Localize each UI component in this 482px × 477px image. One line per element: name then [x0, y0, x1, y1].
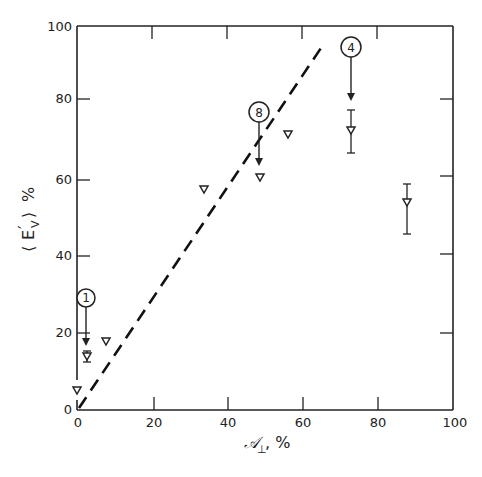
x-tick-80: 80: [370, 415, 387, 430]
annotation-8: 8: [249, 102, 269, 166]
y-axis-close-bracket: ⟩: [19, 212, 38, 218]
data-point: [200, 186, 208, 193]
y-tick-80: 80: [55, 91, 72, 106]
y-tick-0: 0: [64, 402, 72, 417]
data-point: [284, 131, 292, 138]
data-point: [83, 353, 91, 360]
x-axis-ticks: [152, 26, 378, 410]
y-tick-60: 60: [55, 172, 72, 187]
dashed-reference-line: [79, 45, 323, 408]
x-tick-100: 100: [443, 415, 468, 430]
data-point: [256, 174, 264, 181]
x-tick-0: 0: [74, 415, 82, 430]
annotation-8-label: 8: [255, 106, 263, 120]
y-axis-E: E: [19, 230, 38, 240]
arrow-down-icon: [347, 93, 355, 101]
y-axis-ticks: [77, 99, 453, 333]
data-point: [73, 387, 81, 394]
x-tick-20: 20: [146, 415, 163, 430]
annotation-1: 1: [77, 289, 95, 346]
x-tick-60: 60: [295, 415, 312, 430]
data-point: [102, 338, 110, 345]
y-tick-20: 20: [55, 325, 72, 340]
x-tick-labels: 0 20 40 60 80 100: [74, 415, 468, 430]
annotation-4-label: 4: [347, 41, 355, 55]
x-tick-40: 40: [220, 415, 237, 430]
x-axis-title: 𝒜 ⊥ , %: [244, 433, 290, 456]
y-axis-open-bracket: ⟨: [19, 246, 38, 252]
y-tick-labels: 0 20 40 60 80 100: [47, 19, 72, 417]
scatter-chart: 0 20 40 60 80 100 0 20 40 60 80 100 𝒜 ⊥ …: [0, 0, 482, 477]
arrow-down-icon: [255, 158, 263, 166]
data-point: [403, 199, 411, 206]
x-axis-unit: , %: [265, 433, 290, 452]
plot-frame: [77, 26, 453, 410]
y-axis-unit: %: [19, 187, 38, 202]
y-axis-title: ⟨ E ′ V ⟩ %: [15, 187, 42, 252]
data-points: [73, 127, 411, 394]
y-tick-40: 40: [55, 248, 72, 263]
error-bars: [83, 110, 411, 362]
y-axis-subscript: V: [29, 220, 42, 228]
annotation-4: 4: [341, 37, 361, 101]
annotation-1-label: 1: [82, 291, 90, 305]
data-point: [347, 127, 355, 134]
y-tick-100: 100: [47, 19, 72, 34]
arrow-down-icon: [82, 338, 90, 346]
